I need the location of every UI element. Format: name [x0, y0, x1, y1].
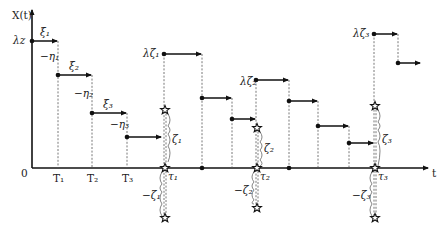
y-axis-label: X(t) — [12, 9, 32, 21]
tick-tau2: τ₂ — [260, 170, 270, 182]
stochastic-process-diagram: X(t) t 0 λz λζ₁ λζ₂ λζ₃ ξ₁ ξ₂ ξ₃ −η₁ −η₂… — [0, 0, 444, 240]
label-eta1: −η₁ — [40, 50, 59, 62]
tick-T1: T₁ — [53, 172, 64, 184]
star-icon — [253, 123, 262, 131]
label-xi3: ξ₃ — [103, 98, 113, 110]
tick-T3: T₃ — [122, 172, 133, 184]
brace-neg-zeta3: −ζ₃ — [352, 189, 371, 201]
label-eta3: −η₃ — [110, 118, 129, 130]
brace-zeta3: ζ₃ — [382, 133, 392, 145]
level-jump3: λζ₃ — [352, 27, 370, 39]
star-icon — [161, 105, 170, 113]
step-segments — [30, 32, 420, 169]
jump-markers — [161, 101, 380, 221]
label-xi2: ξ₂ — [69, 60, 79, 72]
brace-neg-zeta2: −ζ₂ — [234, 184, 253, 196]
label-xi1: ξ₁ — [40, 26, 50, 38]
star-icon — [371, 101, 380, 109]
tick-T2: T₂ — [87, 172, 98, 184]
brace-neg-zeta1: −ζ₁ — [142, 189, 161, 201]
level-jump2: λζ₂ — [239, 75, 257, 87]
star-icon — [371, 213, 380, 221]
brace-zeta1: ζ₁ — [172, 133, 182, 145]
tick-tau3: τ₃ — [378, 170, 388, 182]
brace-zeta2: ζ₂ — [264, 142, 274, 154]
x-axis-label: t — [432, 167, 437, 179]
level-jump1: λζ₁ — [142, 47, 160, 59]
star-icon — [161, 213, 170, 221]
label-eta2: −η₂ — [74, 87, 93, 99]
tick-tau1: τ₁ — [168, 170, 178, 182]
level-initial: λz — [12, 34, 26, 46]
origin-label: 0 — [21, 167, 28, 179]
star-icon — [253, 203, 262, 211]
